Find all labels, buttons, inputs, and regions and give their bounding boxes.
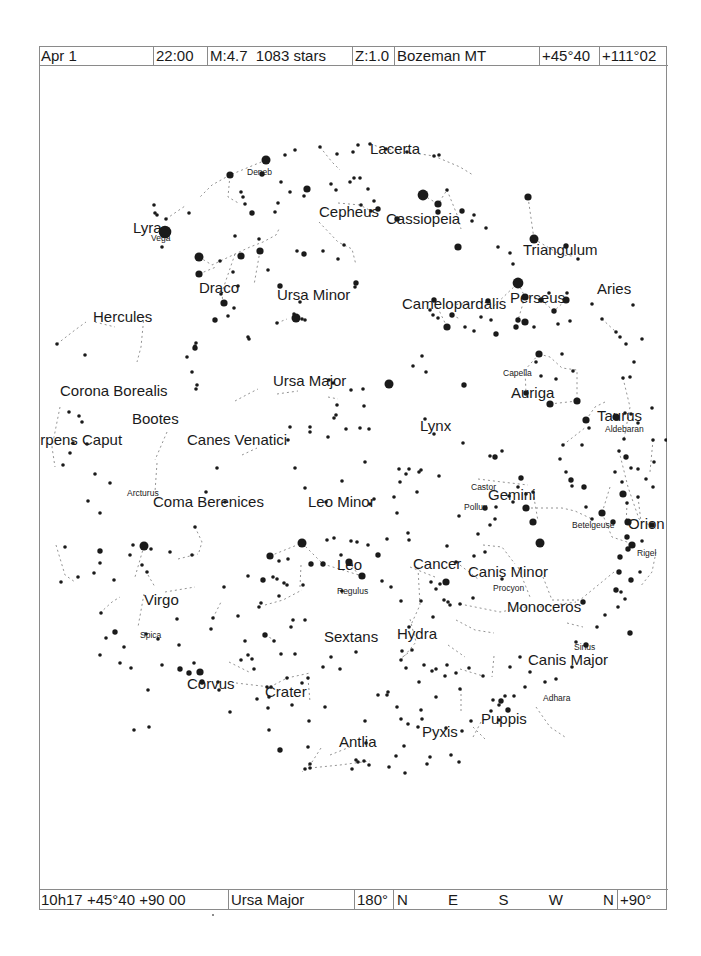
star[interactable] (355, 540, 359, 544)
star[interactable] (415, 490, 419, 494)
star[interactable] (376, 693, 380, 697)
star[interactable] (392, 495, 396, 499)
star[interactable] (651, 438, 655, 442)
star[interactable] (259, 601, 263, 605)
star[interactable] (275, 577, 279, 581)
star[interactable] (298, 539, 307, 548)
star[interactable] (112, 578, 116, 582)
star[interactable] (446, 600, 450, 604)
star[interactable] (232, 306, 236, 310)
star[interactable] (86, 499, 90, 503)
star[interactable] (420, 717, 424, 721)
star[interactable] (417, 680, 421, 684)
star[interactable] (351, 150, 355, 154)
star[interactable] (402, 744, 406, 748)
star[interactable] (632, 360, 636, 364)
constellation-label[interactable]: Canes Venatici (187, 431, 287, 448)
star[interactable] (292, 314, 301, 323)
star[interactable] (394, 754, 398, 758)
star[interactable] (431, 615, 435, 619)
star[interactable] (434, 667, 438, 671)
star[interactable] (618, 335, 622, 339)
star[interactable] (603, 613, 607, 617)
star[interactable] (76, 575, 80, 579)
star[interactable] (625, 501, 629, 505)
star[interactable] (437, 153, 441, 157)
star[interactable] (301, 251, 306, 256)
star[interactable] (362, 759, 366, 763)
star[interactable] (282, 581, 286, 585)
star[interactable] (262, 632, 267, 637)
star[interactable] (650, 406, 654, 410)
star[interactable] (476, 532, 480, 536)
star[interactable] (570, 484, 574, 488)
star[interactable] (358, 176, 362, 180)
constellation-label[interactable]: Sextans (324, 628, 378, 645)
star[interactable] (267, 728, 271, 732)
star[interactable] (335, 403, 339, 407)
star[interactable] (168, 550, 172, 554)
star[interactable] (303, 318, 307, 322)
star[interactable] (406, 531, 410, 535)
star[interactable] (399, 658, 403, 662)
star[interactable] (411, 364, 415, 368)
star[interactable] (454, 243, 461, 250)
star[interactable] (385, 380, 394, 389)
star[interactable] (448, 603, 452, 607)
star[interactable] (353, 280, 358, 285)
star[interactable] (434, 200, 441, 207)
star[interactable] (353, 285, 357, 289)
star[interactable] (483, 550, 487, 554)
star[interactable] (380, 579, 384, 583)
star[interactable] (539, 374, 543, 378)
star[interactable] (640, 337, 644, 341)
star[interactable] (419, 468, 423, 472)
star[interactable] (449, 312, 454, 317)
star[interactable] (257, 605, 261, 609)
constellation-label[interactable]: Antlia (339, 733, 377, 750)
star[interactable] (375, 552, 380, 557)
star[interactable] (404, 666, 408, 670)
star[interactable] (215, 466, 219, 470)
star[interactable] (243, 639, 247, 643)
star[interactable] (279, 180, 283, 184)
star[interactable] (622, 437, 626, 441)
star[interactable] (628, 577, 633, 582)
star[interactable] (554, 677, 558, 681)
star[interactable] (112, 629, 117, 634)
star[interactable] (513, 324, 518, 329)
star[interactable] (367, 763, 371, 767)
star[interactable] (621, 376, 625, 380)
star[interactable] (457, 514, 461, 518)
star[interactable] (493, 331, 498, 336)
star[interactable] (222, 585, 226, 589)
star[interactable] (403, 771, 407, 775)
star[interactable] (497, 703, 501, 707)
star[interactable] (226, 314, 230, 318)
star[interactable] (366, 187, 370, 191)
star[interactable] (160, 245, 164, 249)
star[interactable] (307, 719, 311, 723)
star[interactable] (209, 627, 213, 631)
star[interactable] (290, 703, 294, 707)
star[interactable] (407, 467, 411, 471)
star[interactable] (122, 645, 126, 649)
star[interactable] (175, 617, 179, 621)
star[interactable] (185, 355, 189, 359)
star[interactable] (97, 548, 102, 553)
star[interactable] (273, 210, 277, 214)
star[interactable] (231, 270, 235, 274)
star[interactable] (399, 599, 403, 603)
star[interactable] (303, 767, 307, 771)
star[interactable] (155, 213, 159, 217)
star[interactable] (573, 397, 580, 404)
star[interactable] (260, 577, 265, 582)
star[interactable] (442, 598, 446, 602)
star[interactable] (293, 466, 297, 470)
star[interactable] (460, 729, 464, 733)
constellation-label[interactable]: Orion (628, 515, 665, 532)
star[interactable] (528, 670, 532, 674)
star[interactable] (624, 534, 629, 539)
star[interactable] (640, 539, 644, 543)
longitude-field[interactable]: +111°02 (600, 46, 668, 65)
